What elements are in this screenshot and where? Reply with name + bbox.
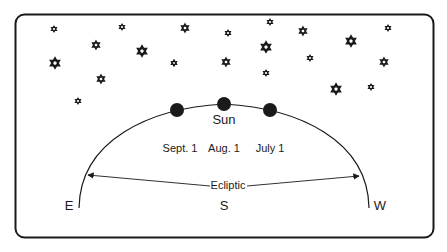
east-label: E xyxy=(65,199,74,212)
sun-aug xyxy=(217,97,231,111)
sun-july xyxy=(263,103,277,117)
star-field xyxy=(51,19,391,104)
sept-label: Sept. 1 xyxy=(163,143,198,154)
july-label: July 1 xyxy=(256,143,285,154)
sun-label: Sun xyxy=(212,113,235,126)
ecliptic-label: Ecliptic xyxy=(211,180,246,191)
south-label: S xyxy=(220,199,229,212)
ecliptic-arrow-left xyxy=(88,175,210,186)
aug-label: Aug. 1 xyxy=(208,143,240,154)
west-label: W xyxy=(374,199,386,212)
ecliptic-arrow-right xyxy=(247,176,359,186)
sun-sept xyxy=(170,103,184,117)
